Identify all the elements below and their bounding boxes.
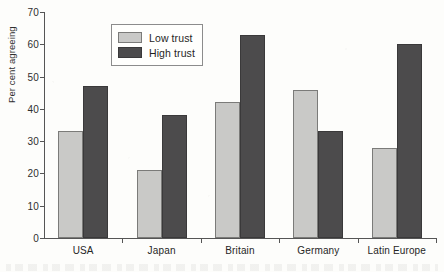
y-tick-label-20: 20: [27, 168, 39, 179]
high-trust-swatch: [118, 47, 142, 58]
x-tick-separator-4: [358, 238, 359, 243]
y-axis-title: Per cent agreeing: [6, 26, 17, 103]
bar-usa-high-trust: [83, 86, 108, 238]
legend-item-low-trust: Low trust: [118, 30, 195, 45]
bar-britain-low-trust: [215, 102, 240, 238]
y-tick-label-50: 50: [27, 71, 39, 82]
y-tick-label-40: 40: [27, 103, 39, 114]
y-axis-line: [44, 12, 45, 238]
x-axis-line: [44, 238, 436, 239]
bar-britain-high-trust: [240, 35, 265, 238]
x-label-germany: Germany: [297, 245, 339, 256]
x-label-latin-europe: Latin Europe: [368, 245, 427, 256]
bar-germany-low-trust: [293, 90, 318, 239]
y-tick-label-60: 60: [27, 39, 39, 50]
y-tick-40: [40, 109, 45, 110]
low-trust-swatch: [118, 32, 142, 43]
y-tick-60: [40, 44, 45, 45]
x-label-usa: USA: [73, 245, 94, 256]
x-tick-separator-3: [279, 238, 280, 243]
legend-label-high-trust: High trust: [149, 47, 195, 59]
bar-japan-high-trust: [162, 115, 187, 238]
plot-area: 010203040506070 USAJapanBritainGermanyLa…: [44, 12, 440, 238]
figure-bar-chart: Per cent agreeing 010203040506070 USAJap…: [0, 0, 444, 272]
y-tick-label-10: 10: [27, 200, 39, 211]
y-tick-50: [40, 77, 45, 78]
x-tick-separator-1: [122, 238, 123, 243]
x-tick-end: [436, 238, 437, 243]
y-tick-label-70: 70: [27, 7, 39, 18]
bar-japan-low-trust: [137, 170, 162, 238]
bar-germany-high-trust: [318, 131, 343, 238]
y-tick-0: [40, 238, 45, 239]
chart-legend: Low trust High trust: [111, 24, 203, 66]
y-tick-30: [40, 141, 45, 142]
cropped-caption-remnant: [6, 264, 438, 271]
y-tick-20: [40, 173, 45, 174]
legend-item-high-trust: High trust: [118, 45, 195, 60]
x-tick-separator-2: [201, 238, 202, 243]
x-label-japan: Japan: [148, 245, 176, 256]
legend-label-low-trust: Low trust: [149, 32, 193, 44]
bar-latin-europe-low-trust: [372, 148, 397, 238]
bar-latin-europe-high-trust: [397, 44, 422, 238]
bar-usa-low-trust: [58, 131, 83, 238]
y-tick-10: [40, 206, 45, 207]
y-tick-label-0: 0: [33, 233, 39, 244]
y-tick-70: [40, 12, 45, 13]
x-label-britain: Britain: [225, 245, 254, 256]
y-tick-label-30: 30: [27, 136, 39, 147]
